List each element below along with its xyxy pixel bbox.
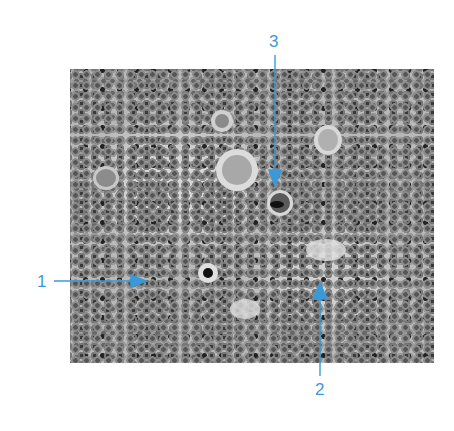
arrow-1-head [131,275,146,287]
arrow-2-head [313,283,327,299]
label-1: 1 [37,273,46,290]
figure: 3 1 2 [0,0,454,431]
arrow-3-head [269,170,281,186]
label-3: 3 [269,33,278,50]
annotation-arrows [0,0,454,431]
label-2: 2 [315,381,324,398]
